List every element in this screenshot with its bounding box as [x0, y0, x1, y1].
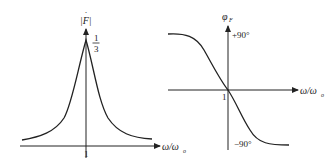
phase-y-label: φ [222, 11, 228, 22]
amplitude-plot: |F| · 1 3 1 ω/ω o [20, 7, 186, 159]
amplitude-curve [22, 40, 152, 140]
amplitude-y-label-dot: · [85, 7, 88, 17]
peak-label-numerator: 1 [94, 33, 99, 43]
phase-top-label: +90° [232, 30, 250, 40]
peak-label-denominator: 3 [94, 44, 99, 54]
amplitude-x-tick-1: 1 [84, 149, 89, 159]
phase-x-label: ω/ω [300, 85, 317, 96]
phase-y-label-sub: F [228, 17, 233, 23]
amplitude-x-label: ω/ω [162, 141, 179, 152]
phase-plot: φ F +90° −90° 1 ω/ω o [168, 11, 324, 150]
phase-origin-tick-1: 1 [222, 92, 227, 102]
amplitude-x-label-sub: o [183, 148, 186, 154]
figure-canvas: |F| · 1 3 1 ω/ω o φ F +90° −90° 1 ω/ω o [0, 0, 331, 168]
phase-x-label-sub: o [321, 92, 324, 98]
phase-bottom-label: −90° [234, 139, 252, 149]
